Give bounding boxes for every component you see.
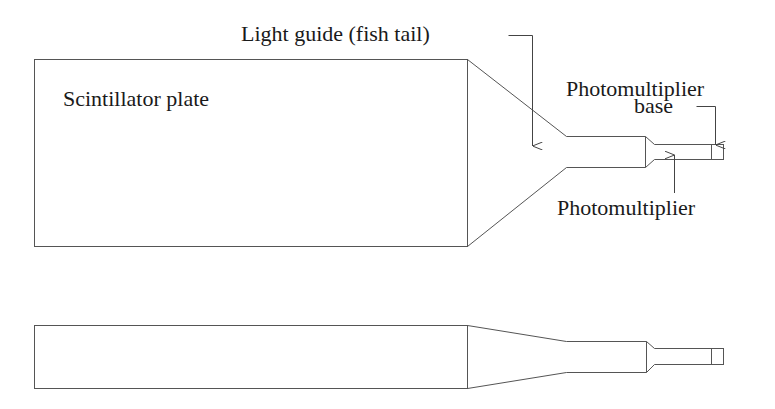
photomultiplier-base-top <box>712 145 724 160</box>
pmt-label: Photomultiplier <box>557 195 696 220</box>
pmt-base-label-line2: base <box>634 93 673 118</box>
scintillator-label: Scintillator plate <box>63 86 209 111</box>
photomultiplier-side <box>655 349 712 365</box>
light-guide-leader-arrow <box>509 36 533 147</box>
photomultiplier-base-side <box>712 349 724 365</box>
scintillator-plate-side <box>35 326 468 389</box>
light-guide-label: Light guide (fish tail) <box>241 21 430 46</box>
top-view: Scintillator plate Light guide (fish tai… <box>35 21 724 247</box>
scintillator-diagram: Scintillator plate Light guide (fish tai… <box>0 0 775 409</box>
light-guide-side <box>468 326 655 389</box>
pmt-base-leader-arrow <box>697 107 716 146</box>
photomultiplier-top <box>655 145 713 160</box>
side-view <box>35 326 724 389</box>
